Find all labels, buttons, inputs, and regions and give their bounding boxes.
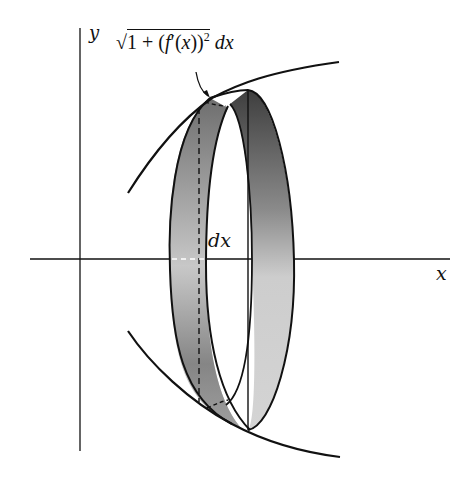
band-far-face [230, 90, 294, 430]
upper-curve [128, 62, 339, 193]
radicand-part: ′( [171, 31, 182, 53]
arrowhead-icon [203, 90, 210, 98]
radical-sign: √ [116, 31, 127, 53]
radicand-part: )) [190, 31, 203, 53]
radicand: 1 + (f′(x))2 [127, 29, 210, 53]
surface-of-revolution-diagram [0, 0, 472, 480]
arc-length-formula: √1 + (f′(x))2 dx [116, 30, 234, 54]
x-axis-label: x [436, 262, 447, 284]
band-width-label: dx [208, 229, 231, 251]
radicand-part: 1 + ( [127, 31, 165, 53]
exponent: 2 [204, 30, 210, 44]
formula-dx: dx [215, 31, 234, 53]
y-axis-label: y [89, 22, 99, 43]
